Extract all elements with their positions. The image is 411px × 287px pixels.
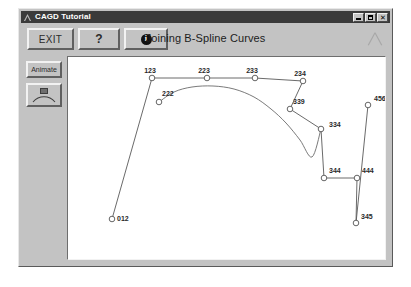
bspline-curve xyxy=(159,86,321,157)
control-point[interactable] xyxy=(318,126,324,132)
minimize-icon xyxy=(356,18,361,20)
bspline-curve-path xyxy=(159,86,321,157)
control-point[interactable] xyxy=(321,175,327,181)
control-point[interactable] xyxy=(354,175,360,181)
point-labels: 012123222223233234339334344444345456 xyxy=(117,67,386,222)
control-point-label: 012 xyxy=(117,215,129,222)
control-point-label: 222 xyxy=(162,90,174,97)
bspline-plot: 012123222223233234339334344444345456 xyxy=(68,57,386,260)
sidebar: Animate xyxy=(21,54,67,264)
title-bar[interactable]: CAGD Tutorial ✕ xyxy=(21,11,390,23)
control-point[interactable] xyxy=(252,75,258,81)
close-button[interactable]: ✕ xyxy=(377,13,388,22)
control-point-label: 339 xyxy=(293,98,305,105)
triangle-logo-icon xyxy=(366,30,384,48)
sidebar-item-curve-tool[interactable] xyxy=(26,83,62,107)
maximize-icon xyxy=(368,15,373,20)
triangle-logo-icon xyxy=(23,13,32,22)
minimize-button[interactable] xyxy=(353,13,364,22)
animate-button-label: Animate xyxy=(31,66,57,73)
control-point-label: 234 xyxy=(294,70,306,77)
control-point-label: 456 xyxy=(374,95,386,102)
control-polygon-path xyxy=(112,78,368,223)
curve-swatch-icon xyxy=(40,88,48,94)
control-polygon xyxy=(112,78,368,223)
work-area: Animate 01212322222323323433933434444434… xyxy=(21,54,390,264)
control-point[interactable] xyxy=(353,220,359,226)
control-point-label: 233 xyxy=(246,67,258,74)
control-points xyxy=(109,75,371,226)
page-title: Joining B-Spline Curves xyxy=(21,32,390,44)
control-point[interactable] xyxy=(204,75,210,81)
control-point[interactable] xyxy=(365,102,371,108)
maximize-button[interactable] xyxy=(365,13,376,22)
control-point-label: 345 xyxy=(361,213,373,220)
control-point-label: 334 xyxy=(329,121,341,128)
control-point[interactable] xyxy=(300,78,306,84)
control-point[interactable] xyxy=(287,106,293,112)
sidebar-item-animate[interactable]: Animate xyxy=(26,61,62,78)
drawing-canvas[interactable]: 012123222223233234339334344444345456 xyxy=(67,56,386,260)
control-point[interactable] xyxy=(156,99,162,105)
application-window: CAGD Tutorial ✕ EXIT ? i Joining B-Splin… xyxy=(18,8,393,267)
control-point-label: 344 xyxy=(329,167,341,174)
curve-arc-icon xyxy=(32,95,56,103)
control-point[interactable] xyxy=(109,216,115,222)
close-icon: ✕ xyxy=(378,14,387,21)
control-point-label: 223 xyxy=(198,67,210,74)
control-point-label: 444 xyxy=(362,167,374,174)
toolbar: EXIT ? i Joining B-Spline Curves xyxy=(21,24,390,54)
window-title: CAGD Tutorial xyxy=(35,12,91,22)
control-point-label: 123 xyxy=(144,67,156,74)
control-point[interactable] xyxy=(149,75,155,81)
